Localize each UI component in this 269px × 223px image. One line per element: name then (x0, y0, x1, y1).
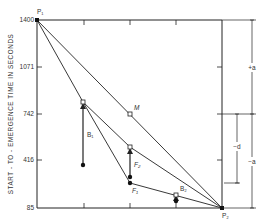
point-f1 (128, 181, 132, 185)
label-p2: P₂ (222, 212, 229, 219)
label-b1: B₁ (87, 131, 94, 138)
point-f2-open (128, 145, 132, 149)
dimension-labels: +a −a −d (231, 63, 258, 166)
dimension-lines (222, 20, 256, 208)
label-b2: B₂ (180, 185, 187, 192)
label-p1: P₁ (37, 8, 44, 15)
point-labels: P₁ P₂ M B₁ F₂ F₁ B₂ (37, 8, 229, 219)
line-b1-f2 (83, 102, 130, 147)
y-tick-742: 742 (23, 110, 34, 117)
point-m (128, 112, 132, 116)
point-b1-open (81, 100, 85, 104)
y-tick-416: 416 (23, 156, 34, 163)
label-minus-a: −a (248, 158, 256, 165)
point-b2-filled (174, 199, 178, 203)
point-b1-filled (81, 163, 85, 167)
y-axis-label: START - TO - EMERGENCE TIME IN SECONDS (7, 34, 14, 195)
y-tick-1400: 1400 (20, 16, 35, 23)
line-p1-b1 (37, 20, 83, 102)
offset-arrows (83, 106, 176, 201)
diagram-canvas: 1400 1071 742 416 85 START - TO - EMERGE… (0, 0, 269, 223)
label-f1: F₁ (132, 187, 138, 194)
label-plus-a: +a (248, 64, 256, 71)
line-b1-f1 (83, 102, 130, 183)
point-f2-filled (128, 175, 132, 179)
y-tick-1071: 1071 (20, 63, 35, 70)
point-p1 (35, 18, 39, 22)
label-m: M (134, 104, 140, 111)
y-tick-labels: 1400 1071 742 416 85 (20, 16, 35, 211)
label-f2: F₂ (134, 161, 141, 168)
y-tick-85: 85 (27, 204, 35, 211)
point-b2-open (174, 193, 178, 197)
label-minus-d: −d (233, 143, 241, 150)
